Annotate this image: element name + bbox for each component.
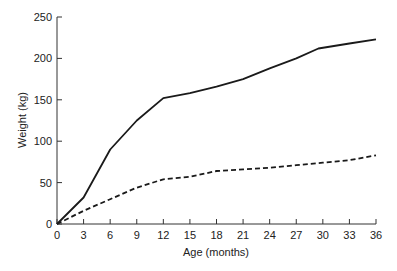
- x-tick-label: 27: [290, 229, 302, 241]
- x-axis-title: Age (months): [183, 246, 249, 258]
- x-axis: 0369121518212427303336: [54, 219, 382, 241]
- x-tick-label: 30: [317, 229, 329, 241]
- line-chart: 050100150200250 0369121518212427303336 W…: [0, 0, 397, 271]
- series-line-dashed: [57, 155, 376, 224]
- x-tick-label: 18: [210, 229, 222, 241]
- x-tick-label: 24: [264, 229, 276, 241]
- x-tick-label: 15: [184, 229, 196, 241]
- y-tick-label: 50: [40, 177, 52, 189]
- y-axis-title: Weight (kg): [16, 92, 28, 148]
- series-group: [57, 39, 376, 224]
- x-tick-label: 3: [81, 229, 87, 241]
- y-axis: 050100150200250: [34, 11, 62, 230]
- x-tick-label: 12: [157, 229, 169, 241]
- series-line-solid: [57, 39, 376, 224]
- y-tick-label: 150: [34, 94, 52, 106]
- x-tick-label: 6: [107, 229, 113, 241]
- y-tick-label: 0: [46, 218, 52, 230]
- y-tick-label: 200: [34, 52, 52, 64]
- x-tick-label: 0: [54, 229, 60, 241]
- x-tick-label: 9: [134, 229, 140, 241]
- y-tick-label: 250: [34, 11, 52, 23]
- x-tick-label: 21: [237, 229, 249, 241]
- x-tick-label: 33: [343, 229, 355, 241]
- y-tick-label: 100: [34, 135, 52, 147]
- x-tick-label: 36: [370, 229, 382, 241]
